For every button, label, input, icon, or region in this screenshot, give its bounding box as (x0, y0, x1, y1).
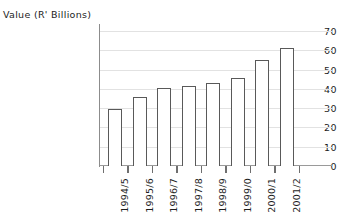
gridline (100, 70, 332, 71)
x-axis-tick (250, 166, 251, 173)
bar (108, 109, 122, 166)
bar (182, 86, 196, 166)
x-axis-category-label: 1994/5 (119, 178, 130, 213)
x-axis-tick (226, 166, 227, 173)
gridline (100, 50, 332, 51)
bar (280, 48, 294, 166)
x-axis-tick (128, 166, 129, 173)
bar (157, 88, 171, 166)
x-axis-category-label: 2001/2 (291, 178, 302, 213)
x-axis-tick (103, 166, 104, 173)
x-axis-tick (299, 166, 300, 173)
gridline (100, 31, 332, 32)
x-axis-tick (177, 166, 178, 173)
bar-chart: Value (R' Billions) 706050403020100 1994… (0, 0, 342, 214)
bar (133, 97, 147, 166)
y-axis-title: Value (R' Billions) (3, 9, 91, 20)
x-axis-tick (275, 166, 276, 173)
x-axis-category-label: 1998/9 (217, 178, 228, 213)
plot-area: 1994/51995/61996/71997/81998/91999/02000… (100, 31, 332, 166)
bar (206, 83, 220, 166)
x-axis-tick (152, 166, 153, 173)
bar (255, 60, 269, 166)
x-axis-category-label: 1999/0 (242, 178, 253, 213)
x-axis-category-label: 2000/1 (266, 178, 277, 213)
x-axis-category-label: 1995/6 (144, 178, 155, 213)
x-axis-category-label: 1996/7 (168, 178, 179, 213)
x-axis-category-label: 1997/8 (193, 178, 204, 213)
bar (231, 78, 245, 166)
x-axis-tick (201, 166, 202, 173)
